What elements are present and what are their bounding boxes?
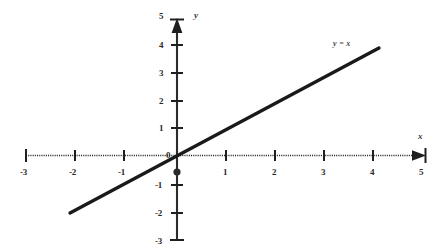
x-tick-label-0: 0 — [166, 151, 170, 160]
x-axis-label: x — [418, 132, 423, 141]
x-tick-label--3: -3 — [20, 168, 27, 177]
x-tick-label-2: 2 — [272, 168, 276, 177]
y-tick-label--1: -1 — [155, 181, 162, 190]
x-tick-label-3: 3 — [321, 168, 325, 177]
x-tick-label-4: 4 — [370, 168, 374, 177]
y-tick-label-1: 1 — [159, 124, 163, 133]
line-equation-label: y = x — [333, 40, 351, 48]
x-tick-label--1: -1 — [118, 168, 125, 177]
y-axis-label: y — [194, 11, 198, 20]
coordinate-plane — [0, 0, 435, 252]
line-y-equals-x — [70, 48, 379, 213]
y-tick-label--3: -3 — [155, 237, 162, 246]
x-axis-arrowhead — [412, 150, 426, 161]
point-marker — [173, 168, 180, 175]
graph-canvas: -3 -2 -1 0 1 2 3 4 5 5 4 3 2 1 -1 -2 -3 … — [0, 0, 435, 252]
y-tick-label-4: 4 — [159, 41, 163, 50]
y-tick-label-5: 5 — [159, 12, 163, 21]
y-tick-label-3: 3 — [159, 69, 163, 78]
x-tick-label-1: 1 — [223, 168, 227, 177]
x-tick-label-5: 5 — [419, 168, 423, 177]
x-tick-label--2: -2 — [69, 168, 76, 177]
y-tick-label-2: 2 — [159, 97, 163, 106]
y-tick-label--2: -2 — [155, 209, 162, 218]
